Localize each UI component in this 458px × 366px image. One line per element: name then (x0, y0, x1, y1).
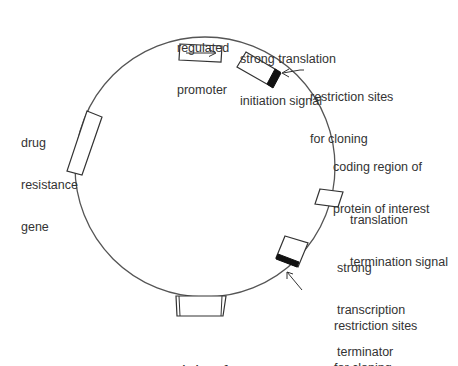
label-promoter-line2: promoter (177, 83, 229, 97)
label-drug-line1: drug (21, 136, 78, 150)
label-coding-line1: coding region of (333, 160, 430, 174)
label-restriction-sites-2: restriction sites for cloning (334, 291, 417, 366)
label-promoter: regulated promoter (177, 13, 229, 111)
label-term-line1: strong (337, 261, 405, 275)
label-promoter-line1: regulated (177, 41, 229, 55)
label-rs2-line2: for cloning (334, 361, 417, 366)
label-drug-line2: resistance (21, 178, 78, 192)
label-rs1-line1: restriction sites (310, 90, 393, 104)
label-origin-of-replication: origin of replication (167, 322, 245, 366)
label-drug-resistance: drug resistance gene (21, 108, 78, 248)
label-rs2-line1: restriction sites (334, 319, 417, 333)
label-drug-line3: gene (21, 220, 78, 234)
label-ori-line1: origin of (167, 362, 245, 366)
label-tts-line1: translation (350, 213, 448, 227)
restriction-sites-2-pointer (287, 272, 302, 290)
origin-of-replication-box (176, 296, 226, 316)
transcription-terminator-box (276, 236, 308, 267)
